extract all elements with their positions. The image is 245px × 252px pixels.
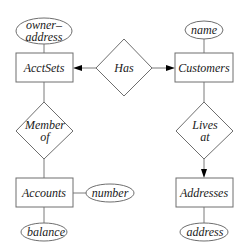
attribute-balance: balance bbox=[21, 223, 67, 241]
attribute-address-label: address bbox=[187, 225, 224, 239]
entity-customers-label: Customers bbox=[178, 61, 230, 75]
relationship-member-of: Member of bbox=[16, 102, 73, 159]
relationship-has-label: Has bbox=[113, 61, 134, 75]
attribute-owner-address-line2: address bbox=[26, 30, 63, 44]
attribute-name: name bbox=[185, 21, 223, 39]
relationship-lives-at: Lives at bbox=[176, 102, 233, 159]
attribute-number: number bbox=[86, 184, 134, 202]
attribute-balance-label: balance bbox=[27, 225, 66, 239]
relationship-has: Has bbox=[96, 39, 152, 96]
attribute-number-label: number bbox=[92, 186, 129, 200]
entity-customers: Customers bbox=[175, 53, 233, 82]
er-diagram: owner– address name number balance addre… bbox=[0, 0, 245, 252]
arrow-into-acctsets-icon bbox=[73, 65, 82, 71]
arrow-into-customers-icon bbox=[166, 65, 175, 71]
entity-addresses: Addresses bbox=[176, 178, 233, 207]
attribute-owner-address: owner– address bbox=[16, 18, 72, 44]
relationship-lives-at-line2: at bbox=[200, 130, 210, 144]
entity-addresses-label: Addresses bbox=[179, 186, 229, 200]
arrow-into-addresses-icon bbox=[201, 169, 207, 178]
entity-accounts: Accounts bbox=[16, 178, 73, 207]
entity-accounts-label: Accounts bbox=[21, 186, 66, 200]
entity-acctsets-label: AcctSets bbox=[23, 61, 65, 75]
attribute-address: address bbox=[180, 223, 228, 241]
entity-acctsets: AcctSets bbox=[16, 53, 73, 82]
attribute-name-label: name bbox=[191, 23, 218, 37]
